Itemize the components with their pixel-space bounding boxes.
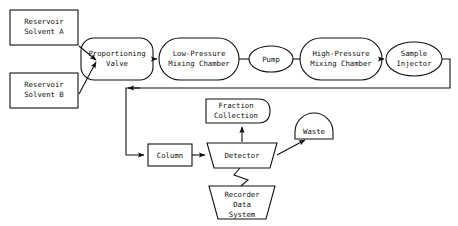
- label-proportioning-valve-line1: Proportioning: [88, 49, 145, 58]
- label-detector: Detector: [224, 151, 260, 160]
- label-pump: Pump: [262, 55, 280, 64]
- label-sample-injector-line2: Injector: [396, 59, 432, 68]
- label-lp-chamber-line1: Low-Pressure: [173, 49, 226, 58]
- label-reservoir-b-line2: Solvent B: [24, 90, 64, 99]
- label-reservoir-a-line1: Reservoir: [24, 17, 64, 26]
- label-fraction-collection-line2: Collection: [214, 111, 258, 120]
- label-reservoir-b-line1: Reservoir: [24, 80, 64, 89]
- label-recorder-line3: System: [229, 210, 256, 219]
- diagram-canvas: Reservoir Solvent A Reservoir Solvent B …: [0, 0, 458, 226]
- label-recorder-line1: Recorder: [224, 190, 260, 199]
- label-lp-chamber-line2: Mixing Chamber: [168, 59, 230, 68]
- label-hp-chamber-line2: Mixing Chamber: [310, 59, 372, 68]
- label-fraction-collection-line1: Fraction: [218, 101, 253, 110]
- label-recorder-line2: Data: [233, 200, 251, 209]
- label-proportioning-valve-line2: Valve: [106, 59, 128, 68]
- label-column: Column: [157, 151, 183, 160]
- label-sample-injector-line1: Sample: [401, 49, 427, 58]
- label-hp-chamber-line1: High-Pressure: [312, 49, 369, 58]
- connector-detector-to-recorder-zigzag: [234, 168, 248, 186]
- hplc-flow-diagram: Reservoir Solvent A Reservoir Solvent B …: [0, 0, 458, 226]
- label-reservoir-a-line2: Solvent A: [24, 27, 64, 36]
- connector-detector-to-waste: [277, 140, 305, 155]
- label-waste: Waste: [303, 127, 325, 136]
